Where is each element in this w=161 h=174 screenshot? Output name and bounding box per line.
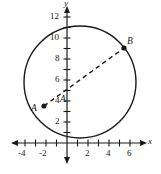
x-tick-label-2: 2 — [85, 149, 90, 158]
point-a-marker — [41, 103, 46, 108]
x-tick-label-neg2: -2 — [39, 149, 47, 158]
x-tick-label-neg4: -4 — [18, 149, 26, 158]
point-a-inner-label: A — [60, 95, 66, 105]
y-tick-label-6: 6 — [55, 75, 60, 84]
y-axis-arrow-down — [64, 157, 70, 164]
x-axis — [11, 140, 147, 146]
y-tick-label-10: 10 — [50, 33, 59, 42]
y-tick-label-4: 4 — [55, 96, 60, 105]
circle-shape — [24, 26, 136, 138]
x-tick-label-4: 4 — [106, 149, 111, 158]
x-tick-label-6: 6 — [127, 149, 132, 158]
coordinate-plane-figure: y x 12 10 8 6 4 2 -4 -2 2 4 6 A A B — [0, 0, 161, 174]
x-axis-arrow-left — [11, 140, 18, 146]
x-axis-label: x — [148, 137, 152, 146]
y-tick-label-2: 2 — [55, 117, 60, 126]
y-tick-label-8: 8 — [55, 54, 60, 63]
point-b-marker — [121, 45, 126, 50]
y-axis — [64, 6, 70, 164]
y-tick-label-12: 12 — [50, 12, 59, 21]
x-axis-arrow-right — [140, 140, 147, 146]
point-b-label: B — [127, 37, 133, 47]
point-a-label: A — [31, 104, 37, 114]
y-axis-label: y — [64, 0, 68, 8]
